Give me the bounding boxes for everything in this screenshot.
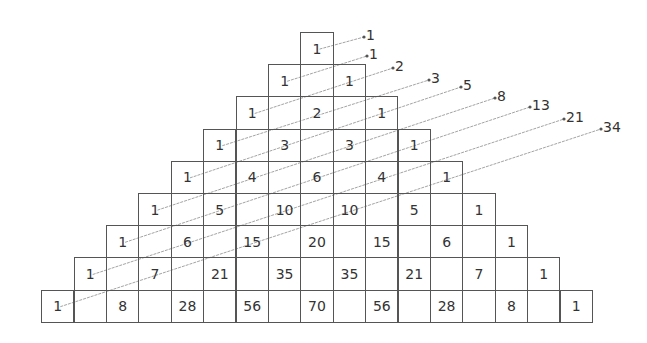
triangle-cell <box>462 290 495 323</box>
triangle-cell <box>171 193 204 226</box>
triangle-cell <box>430 193 463 226</box>
triangle-cell <box>268 290 301 323</box>
triangle-cell: 1 <box>74 257 107 290</box>
fibonacci-sum-label: 34 <box>603 120 621 134</box>
triangle-cell <box>268 96 301 129</box>
triangle-cell <box>300 64 333 97</box>
triangle-cell <box>300 193 333 226</box>
triangle-cell <box>430 257 463 290</box>
triangle-cell: 7 <box>138 257 171 290</box>
triangle-cell: 1 <box>41 290 74 323</box>
triangle-cell <box>398 161 431 194</box>
triangle-cell <box>203 161 236 194</box>
triangle-cell <box>138 290 171 323</box>
triangle-cell: 4 <box>365 161 398 194</box>
triangle-cell: 6 <box>430 225 463 258</box>
triangle-cell: 28 <box>171 290 204 323</box>
triangle-cell: 1 <box>300 32 333 65</box>
triangle-cell: 1 <box>398 129 431 162</box>
triangle-cell <box>268 225 301 258</box>
triangle-cell: 5 <box>398 193 431 226</box>
triangle-cell: 6 <box>300 161 333 194</box>
triangle-cell: 1 <box>106 225 139 258</box>
triangle-cell: 1 <box>203 129 236 162</box>
triangle-cell: 6 <box>171 225 204 258</box>
triangle-cell: 35 <box>333 257 366 290</box>
triangle-cell <box>495 257 528 290</box>
triangle-cell <box>171 257 204 290</box>
fibonacci-sum-label: 5 <box>463 78 472 92</box>
triangle-cell: 1 <box>171 161 204 194</box>
fibonacci-sum-label: 8 <box>497 89 506 103</box>
triangle-cell: 3 <box>333 129 366 162</box>
triangle-cell: 28 <box>430 290 463 323</box>
triangle-cell: 20 <box>300 225 333 258</box>
triangle-cell: 1 <box>236 96 269 129</box>
triangle-cell: 10 <box>333 193 366 226</box>
fibonacci-sum-label: 1 <box>366 28 375 42</box>
triangle-cell <box>300 129 333 162</box>
triangle-cell: 2 <box>300 96 333 129</box>
triangle-cell: 21 <box>203 257 236 290</box>
triangle-cell <box>333 225 366 258</box>
triangle-cell <box>365 257 398 290</box>
triangle-cell: 5 <box>203 193 236 226</box>
triangle-cell <box>462 225 495 258</box>
triangle-cell <box>398 290 431 323</box>
fibonacci-sum-label: 3 <box>431 71 440 85</box>
triangle-cell <box>365 193 398 226</box>
triangle-cell: 1 <box>268 64 301 97</box>
fibonacci-sum-label: 1 <box>369 47 378 61</box>
triangle-cell: 1 <box>560 290 593 323</box>
triangle-cell <box>333 161 366 194</box>
pascal-triangle-diagram: 1111211331146411510105116152015611721353… <box>0 0 647 343</box>
triangle-cell: 1 <box>430 161 463 194</box>
triangle-cell: 1 <box>462 193 495 226</box>
triangle-cell: 10 <box>268 193 301 226</box>
triangle-cell <box>398 225 431 258</box>
triangle-cell: 1 <box>365 96 398 129</box>
triangle-cell: 8 <box>495 290 528 323</box>
triangle-cell <box>268 161 301 194</box>
triangle-cell: 1 <box>527 257 560 290</box>
triangle-cell: 1 <box>333 64 366 97</box>
triangle-cell: 15 <box>365 225 398 258</box>
triangle-cell <box>236 193 269 226</box>
triangle-cell <box>106 257 139 290</box>
triangle-cell <box>333 290 366 323</box>
triangle-cell: 56 <box>365 290 398 323</box>
triangle-cell: 1 <box>138 193 171 226</box>
triangle-cell <box>138 225 171 258</box>
triangle-cell: 15 <box>236 225 269 258</box>
triangle-cell: 4 <box>236 161 269 194</box>
triangle-cell: 8 <box>106 290 139 323</box>
triangle-cell: 7 <box>462 257 495 290</box>
triangle-cell <box>333 96 366 129</box>
triangle-cell: 35 <box>268 257 301 290</box>
fibonacci-sum-label: 2 <box>395 59 404 73</box>
triangle-cell: 3 <box>268 129 301 162</box>
triangle-cell <box>203 225 236 258</box>
triangle-cell <box>74 290 107 323</box>
triangle-cell <box>203 290 236 323</box>
triangle-cell <box>527 290 560 323</box>
triangle-cell: 70 <box>300 290 333 323</box>
triangle-cell <box>236 257 269 290</box>
triangle-cell <box>300 257 333 290</box>
triangle-cell: 1 <box>495 225 528 258</box>
triangle-cell: 56 <box>236 290 269 323</box>
triangle-cell <box>365 129 398 162</box>
triangle-cell: 21 <box>398 257 431 290</box>
fibonacci-sum-label: 21 <box>566 110 584 124</box>
triangle-cell <box>236 129 269 162</box>
fibonacci-sum-label: 13 <box>532 98 550 112</box>
